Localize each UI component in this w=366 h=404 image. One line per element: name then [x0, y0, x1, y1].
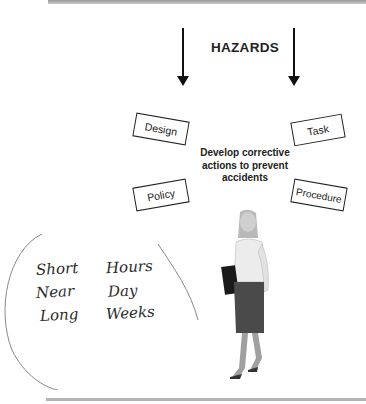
box-label: Procedure — [295, 186, 342, 205]
note-near: Near — [36, 282, 75, 302]
arrow-left-down-icon — [182, 28, 184, 78]
footer-rule — [46, 398, 366, 401]
header-rule — [48, 0, 366, 4]
box-label: Design — [144, 120, 178, 137]
woman-walking-illustration-icon — [218, 208, 278, 386]
diagram-title: HAZARDS — [205, 40, 285, 55]
box-label: Policy — [146, 187, 176, 204]
note-hours: Hours — [106, 257, 154, 277]
note-long: Long — [40, 305, 79, 325]
box-task: Task — [290, 114, 345, 147]
note-weeks: Weeks — [106, 303, 156, 324]
arrow-right-down-icon — [293, 28, 295, 78]
note-short: Short — [36, 259, 79, 279]
note-day: Day — [108, 281, 138, 301]
box-design: Design — [132, 112, 189, 145]
box-label: Task — [306, 122, 329, 138]
box-policy: Policy — [132, 178, 189, 211]
center-text: Develop corrective actions to prevent ac… — [187, 147, 303, 185]
